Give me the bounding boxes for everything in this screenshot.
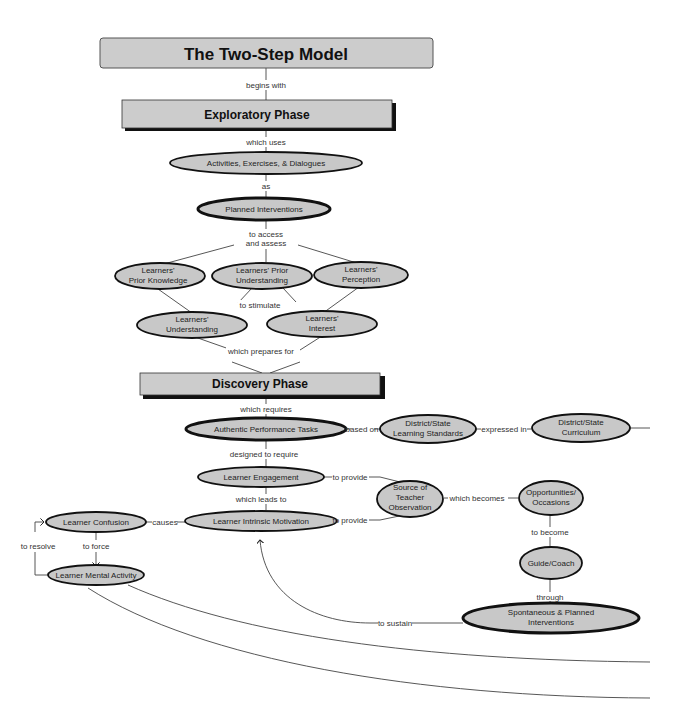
svg-text:Learner Intrinsic Motivation: Learner Intrinsic Motivation bbox=[213, 517, 309, 526]
svg-text:Teacher: Teacher bbox=[396, 493, 425, 502]
svg-text:through: through bbox=[536, 593, 563, 602]
svg-text:which requires: which requires bbox=[239, 405, 292, 414]
svg-text:which uses: which uses bbox=[245, 138, 286, 147]
svg-text:causes: causes bbox=[152, 518, 177, 527]
concept-map: The Two-Step Model Exploratory Phase Dis… bbox=[0, 0, 679, 724]
node-activities: Activities, Exercises, & Dialogues bbox=[170, 152, 362, 174]
node-learning-standards: District/State Learning Standards bbox=[380, 415, 476, 443]
svg-text:which prepares for: which prepares for bbox=[227, 347, 294, 356]
svg-text:Curriculum: Curriculum bbox=[562, 428, 601, 437]
svg-text:Learner Confusion: Learner Confusion bbox=[63, 518, 129, 527]
diagram-title: The Two-Step Model bbox=[184, 45, 348, 64]
svg-text:Planned Interventions: Planned Interventions bbox=[225, 205, 302, 214]
svg-text:to stimulate: to stimulate bbox=[240, 301, 281, 310]
node-authentic-tasks: Authentic Performance Tasks bbox=[186, 418, 346, 440]
discovery-phase-box: Discovery Phase bbox=[140, 373, 385, 399]
node-spontaneous-interventions: Spontaneous & Planned Interventions bbox=[463, 603, 639, 633]
node-engagement: Learner Engagement bbox=[198, 467, 324, 487]
svg-text:Interventions: Interventions bbox=[528, 618, 574, 627]
svg-text:District/State: District/State bbox=[405, 419, 451, 428]
node-prior-understanding: Learners' Prior Understanding bbox=[212, 263, 312, 289]
node-teacher-observation: Source of Teacher Observation bbox=[377, 481, 443, 517]
svg-text:Opportunities/: Opportunities/ bbox=[526, 488, 577, 497]
svg-text:to resolve: to resolve bbox=[21, 542, 56, 551]
node-perception: Learners' Perception bbox=[314, 262, 408, 288]
svg-text:Perception: Perception bbox=[342, 275, 380, 284]
svg-text:designed to require: designed to require bbox=[230, 450, 299, 459]
svg-text:Spontaneous & Planned: Spontaneous & Planned bbox=[508, 608, 594, 617]
svg-text:Activities, Exercises, & Dialo: Activities, Exercises, & Dialogues bbox=[207, 159, 325, 168]
svg-text:to provide: to provide bbox=[332, 516, 368, 525]
svg-text:to provide: to provide bbox=[332, 473, 368, 482]
svg-text:Source of: Source of bbox=[393, 483, 428, 492]
node-opportunities: Opportunities/ Occasions bbox=[519, 481, 583, 515]
svg-text:Interest: Interest bbox=[309, 324, 336, 333]
svg-text:which leads to: which leads to bbox=[235, 495, 287, 504]
svg-text:Learners': Learners' bbox=[175, 315, 209, 324]
svg-text:District/State: District/State bbox=[558, 418, 604, 427]
svg-text:Occasions: Occasions bbox=[532, 498, 569, 507]
svg-text:as: as bbox=[262, 182, 270, 191]
svg-text:Discovery Phase: Discovery Phase bbox=[212, 377, 308, 391]
svg-text:Understanding: Understanding bbox=[166, 325, 218, 334]
svg-text:to become: to become bbox=[531, 528, 569, 537]
svg-text:based on: based on bbox=[346, 425, 379, 434]
svg-text:to sustain: to sustain bbox=[378, 619, 412, 628]
svg-text:Learners': Learners' bbox=[344, 265, 378, 274]
svg-text:which becomes: which becomes bbox=[448, 494, 504, 503]
svg-text:to access: to access bbox=[249, 230, 283, 239]
svg-text:to force: to force bbox=[83, 542, 110, 551]
svg-text:Prior Knowledge: Prior Knowledge bbox=[129, 276, 188, 285]
title-box: The Two-Step Model bbox=[100, 38, 433, 68]
node-guide-coach: Guide/Coach bbox=[520, 547, 582, 579]
svg-text:begins with: begins with bbox=[246, 81, 286, 90]
svg-text:Observation: Observation bbox=[388, 503, 431, 512]
svg-text:Guide/Coach: Guide/Coach bbox=[528, 559, 575, 568]
svg-text:Learners' Prior: Learners' Prior bbox=[236, 266, 289, 275]
node-curriculum: District/State Curriculum bbox=[532, 414, 630, 442]
svg-text:Authentic Performance Tasks: Authentic Performance Tasks bbox=[214, 425, 318, 434]
node-mental-activity: Learner Mental Activity bbox=[48, 565, 144, 585]
node-interest: Learners' Interest bbox=[267, 311, 377, 337]
svg-text:Learners': Learners' bbox=[141, 266, 175, 275]
svg-text:Learner Mental Activity: Learner Mental Activity bbox=[56, 571, 137, 580]
node-prior-knowledge: Learners' Prior Knowledge bbox=[115, 263, 205, 289]
node-understanding: Learners' Understanding bbox=[137, 312, 247, 338]
svg-text:Learner Engagement: Learner Engagement bbox=[223, 473, 299, 482]
svg-text:Learners': Learners' bbox=[305, 314, 339, 323]
svg-text:Learning Standards: Learning Standards bbox=[393, 429, 463, 438]
svg-text:Exploratory Phase: Exploratory Phase bbox=[204, 108, 310, 122]
svg-text:Understanding: Understanding bbox=[236, 276, 288, 285]
node-intrinsic-motivation: Learner Intrinsic Motivation bbox=[185, 511, 337, 531]
svg-text:and assess: and assess bbox=[246, 239, 286, 248]
svg-text:expressed in: expressed in bbox=[481, 425, 526, 434]
node-confusion: Learner Confusion bbox=[46, 512, 146, 532]
exploratory-phase-box: Exploratory Phase bbox=[122, 100, 396, 131]
node-planned-interventions: Planned Interventions bbox=[198, 198, 330, 220]
